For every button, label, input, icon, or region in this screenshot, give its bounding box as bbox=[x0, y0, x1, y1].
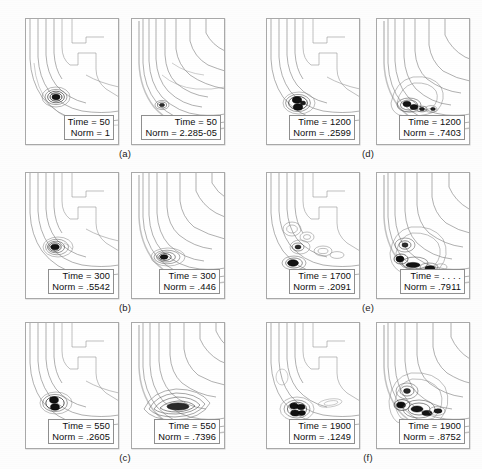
time-label: Time = 1200 bbox=[293, 117, 351, 127]
caption-b-right: Time = 300 Norm = .446 bbox=[159, 269, 220, 294]
panel-c-right: Time = 550 Norm = .7396 bbox=[131, 322, 225, 449]
subfigure-b: Time = 300 Norm = .5542 bbox=[25, 172, 225, 317]
caption-c-right: Time = 550 Norm = .7396 bbox=[154, 419, 220, 444]
vortex-core-d-left bbox=[283, 92, 315, 114]
norm-label: Norm = .7403 bbox=[403, 128, 461, 138]
norm-label: Norm = .7396 bbox=[158, 432, 216, 442]
panel-c-left: Time = 550 Norm = .2605 bbox=[25, 322, 119, 449]
norm-label: Norm = .2599 bbox=[293, 128, 351, 138]
subfigure-e: Time = 1700 Norm = .2091 bbox=[266, 172, 470, 317]
panel-f-right: Time = 1900 Norm = .8752 bbox=[376, 322, 470, 449]
vortex-core-c-left bbox=[40, 392, 72, 414]
norm-label: Norm = .8752 bbox=[403, 432, 461, 442]
time-label: Time = 550 bbox=[158, 421, 216, 431]
subfigure-d: Time = 1200 Norm = .2599 bbox=[266, 18, 470, 163]
time-label: Time = 50 bbox=[68, 117, 110, 127]
vortex-core-a-left bbox=[42, 87, 70, 107]
norm-label: Norm = .446 bbox=[163, 282, 216, 292]
caption-f-right: Time = 1900 Norm = .8752 bbox=[399, 419, 465, 444]
vortex-core-a-right bbox=[155, 100, 169, 109]
subfigure-label-b: (b) bbox=[25, 302, 225, 313]
figure-container: Time = 50 Norm = 1 bbox=[0, 0, 482, 469]
vortex-core-c-right bbox=[144, 389, 210, 420]
time-label: Time = 1900 bbox=[293, 421, 351, 431]
subfigure-label-c: (c) bbox=[25, 452, 225, 463]
time-label: Time = 550 bbox=[52, 421, 110, 431]
caption-e-left: Time = 1700 Norm = .2091 bbox=[289, 269, 355, 294]
panel-d-right: Time = 1200 Norm = .7403 bbox=[376, 18, 470, 145]
subfigure-label-d: (d) bbox=[266, 148, 470, 159]
panel-e-right: Time = . . . . Norm = .7911 bbox=[376, 172, 470, 299]
caption-e-right: Time = . . . . Norm = .7911 bbox=[400, 269, 465, 294]
caption-d-left: Time = 1200 Norm = .2599 bbox=[289, 115, 355, 140]
time-label: Time = 1200 bbox=[403, 117, 461, 127]
time-label: Time = 1700 bbox=[293, 271, 351, 281]
caption-f-left: Time = 1900 Norm = .1249 bbox=[289, 419, 355, 444]
panel-b-right: Time = 300 Norm = .446 bbox=[131, 172, 225, 299]
caption-c-left: Time = 550 Norm = .2605 bbox=[48, 419, 114, 444]
panel-b-left: Time = 300 Norm = .5542 bbox=[25, 172, 119, 299]
norm-label: Norm = .5542 bbox=[52, 282, 110, 292]
norm-label: Norm = 2.285-05 bbox=[145, 128, 217, 138]
time-label: Time = 50 bbox=[145, 117, 217, 127]
subfigure-label-f: (f) bbox=[266, 452, 470, 463]
caption-b-left: Time = 300 Norm = .5542 bbox=[48, 269, 114, 294]
norm-label: Norm = .1249 bbox=[293, 432, 351, 442]
norm-label: Norm = .2605 bbox=[52, 432, 110, 442]
time-label: Time = 1900 bbox=[403, 421, 461, 431]
caption-d-right: Time = 1200 Norm = .7403 bbox=[399, 115, 465, 140]
norm-label: Norm = .7911 bbox=[404, 282, 461, 292]
subfigure-a: Time = 50 Norm = 1 bbox=[25, 18, 225, 163]
panel-f-left: ..... Time = 1900 Norm = .1249 bbox=[266, 322, 360, 449]
panel-e-left: Time = 1700 Norm = .2091 bbox=[266, 172, 360, 299]
panel-a-left: Time = 50 Norm = 1 bbox=[25, 18, 119, 145]
panel-a-right: Time = 50 Norm = 2.285-05 bbox=[131, 18, 225, 145]
panel-d-left: Time = 1200 Norm = .2599 bbox=[266, 18, 360, 145]
norm-label: Norm = .2091 bbox=[293, 282, 351, 292]
subfigure-c: Time = 550 Norm = .2605 bbox=[25, 322, 225, 467]
time-label: Time = 300 bbox=[52, 271, 110, 281]
subfigure-f: ..... Time = 1900 Norm = .1249 bbox=[266, 322, 470, 467]
caption-a-left: Time = 50 Norm = 1 bbox=[64, 115, 114, 140]
vortex-core-f-left bbox=[280, 397, 314, 421]
subfigure-label-a: (a) bbox=[25, 148, 225, 159]
caption-a-right: Time = 50 Norm = 2.285-05 bbox=[141, 115, 221, 140]
subfigure-label-e: (e) bbox=[266, 302, 470, 313]
vortex-core-b-right bbox=[151, 248, 185, 266]
time-label: Time = . . . . bbox=[404, 271, 461, 281]
contour-annotation-f-left: ..... bbox=[298, 365, 303, 369]
time-label: Time = 300 bbox=[163, 271, 216, 281]
norm-label: Norm = 1 bbox=[68, 128, 110, 138]
